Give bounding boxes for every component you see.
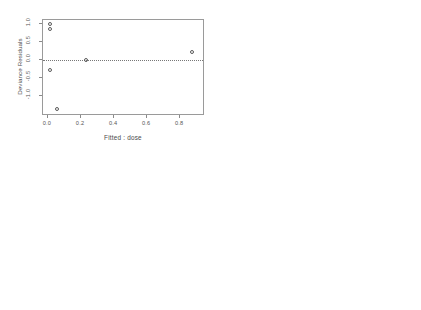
data-point (55, 107, 59, 111)
x-tick-label: 0.4 (109, 120, 117, 126)
x-tick-mark (113, 115, 114, 118)
zero-reference-line (43, 60, 203, 61)
x-tick-mark (179, 115, 180, 118)
x-tick-label: 0.0 (43, 120, 51, 126)
y-tick-mark (39, 41, 42, 42)
data-point (84, 58, 88, 62)
x-tick-label: 0.8 (175, 120, 183, 126)
y-tick-label: -0.5 (25, 66, 31, 86)
y-tick-label: 0.0 (25, 48, 31, 68)
y-tick-label: 1.0 (25, 12, 31, 32)
data-point (48, 27, 52, 31)
x-tick-mark (80, 115, 81, 118)
diagnostic-plot-grid: 0.00.20.40.60.8-1.0-0.50.00.51.0 Fitted … (0, 0, 421, 310)
y-tick-mark (39, 77, 42, 78)
x-tick-mark (146, 115, 147, 118)
x-axis-label-0: Fitted : dose (42, 134, 204, 141)
panel-observed-vs-fitted: 0.00.20.40.60.80.00.20.40.60.8 Fitted : … (0, 155, 210, 310)
y-tick-mark (39, 23, 42, 24)
panel-deviance-residuals-vs-fitted: 0.00.20.40.60.8-1.0-0.50.00.51.0 Fitted … (0, 0, 210, 155)
panel-scale-location: -4-3-2-10120.20.40.60.81.0 Predicted : d… (210, 0, 421, 155)
data-point (190, 50, 194, 54)
data-layer-0 (43, 20, 203, 114)
panel-normal-qq: -1.0-0.50.00.51.0-1.0-0.50.00.51.0 Quant… (210, 155, 421, 310)
y-tick-mark (39, 59, 42, 60)
y-tick-label: -1.0 (25, 84, 31, 104)
y-tick-label: 0.5 (25, 30, 31, 50)
x-tick-label: 0.6 (142, 120, 150, 126)
y-tick-mark (39, 95, 42, 96)
data-point (48, 68, 52, 72)
y-axis-label-0: Deviance Residuals (16, 19, 23, 115)
x-tick-label: 0.2 (76, 120, 84, 126)
data-point (48, 22, 52, 26)
plot-area-0 (42, 19, 204, 115)
x-tick-mark (47, 115, 48, 118)
